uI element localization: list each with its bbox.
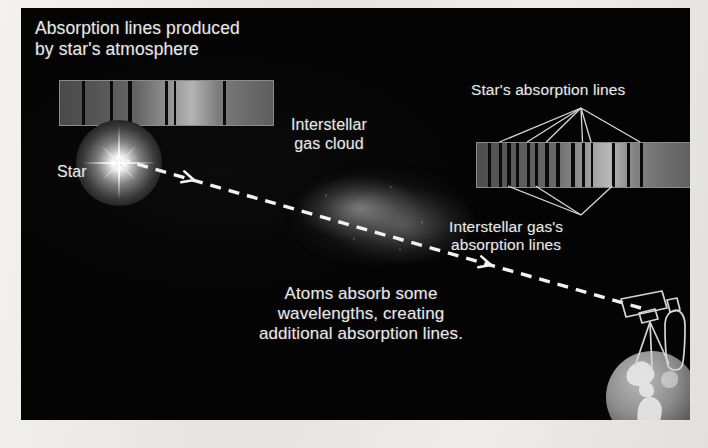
star-lines-leader-fan	[499, 108, 640, 142]
arrowhead-icon	[181, 180, 194, 182]
leader-line	[546, 108, 581, 142]
leader-line	[536, 186, 581, 215]
beam-arrowheads	[181, 171, 491, 267]
caption-text: Atoms absorb some wavelengths, creating …	[201, 284, 521, 344]
leader-line	[581, 186, 612, 215]
leader-line	[508, 186, 581, 215]
diagram-panel: Absorption lines produced by star's atmo…	[21, 8, 690, 420]
telescope-icon	[621, 291, 685, 370]
star-absorption-lines-label: Star's absorption lines	[471, 81, 625, 99]
vector-overlay	[21, 8, 690, 420]
interstellar-lines-leader-fan	[508, 186, 612, 215]
arrowhead-icon	[184, 171, 194, 180]
gas-cloud-label: Interstellar gas cloud	[291, 116, 367, 154]
leader-line	[499, 108, 581, 142]
arrowhead-icon	[478, 265, 491, 267]
star-label: Star	[57, 163, 87, 182]
leader-line	[527, 108, 581, 142]
interstellar-absorption-lines-label: Interstellar gas's absorption lines	[449, 218, 563, 255]
page-title: Absorption lines produced by star's atmo…	[35, 18, 240, 59]
figure-root: Absorption lines produced by star's atmo…	[0, 0, 708, 448]
